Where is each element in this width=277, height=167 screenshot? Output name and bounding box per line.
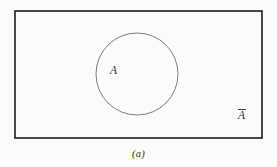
set-a-complement-label: A — [238, 109, 245, 122]
universal-set-rectangle — [15, 11, 262, 138]
set-a-label: A — [110, 65, 117, 77]
set-a-complement-label-text: A — [238, 109, 245, 122]
venn-diagram-canvas — [0, 0, 277, 167]
set-a-circle — [96, 33, 178, 115]
venn-diagram-figure: A A (a) — [0, 0, 277, 167]
figure-caption: (a) — [0, 148, 277, 159]
